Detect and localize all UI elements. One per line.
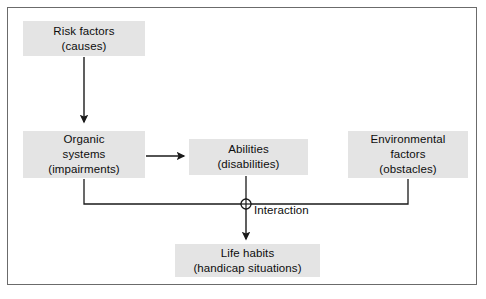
node-risk-factors[interactable]: Risk factors (causes): [23, 21, 145, 56]
interaction-label: Interaction: [254, 204, 309, 216]
node-life-habits-line1: Life habits: [221, 246, 275, 261]
node-environmental-factors-line3: (obstacles): [379, 162, 436, 177]
node-organic-systems-line2: systems: [63, 147, 106, 162]
node-environmental-factors[interactable]: Environmental factors (obstacles): [348, 131, 468, 178]
node-life-habits-line2: (handicap situations): [193, 261, 301, 276]
node-abilities-line2: (disabilities): [217, 157, 279, 172]
node-organic-systems-line1: Organic: [64, 132, 105, 147]
node-abilities[interactable]: Abilities (disabilities): [189, 139, 308, 175]
diagram-canvas: Interaction Risk factors (causes) Organi…: [0, 0, 486, 299]
node-risk-factors-line2: (causes): [62, 39, 107, 54]
node-environmental-factors-line2: factors: [390, 147, 425, 162]
node-environmental-factors-line1: Environmental: [371, 132, 446, 147]
node-organic-systems-line3: (impairments): [48, 162, 120, 177]
node-risk-factors-line1: Risk factors: [53, 24, 114, 39]
node-abilities-line1: Abilities: [228, 142, 269, 157]
node-life-habits[interactable]: Life habits (handicap situations): [175, 244, 320, 277]
node-organic-systems[interactable]: Organic systems (impairments): [23, 131, 145, 178]
